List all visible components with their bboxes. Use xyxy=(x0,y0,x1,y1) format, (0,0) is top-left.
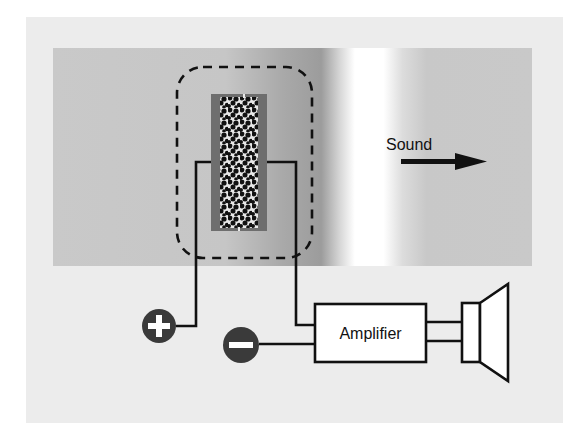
negative-terminal xyxy=(223,327,259,363)
carbon-granules xyxy=(220,97,258,228)
carbon-microphone-diagram: Sound Amplifier xyxy=(0,0,567,440)
amplifier: Amplifier xyxy=(315,304,426,362)
loudspeaker-icon xyxy=(462,284,508,381)
positive-terminal xyxy=(142,309,176,343)
amplifier-label: Amplifier xyxy=(339,325,402,342)
carbon-microphone xyxy=(211,94,267,231)
bottom-notch xyxy=(238,227,240,231)
diaphragm-notch xyxy=(243,94,245,98)
sound-label: Sound xyxy=(386,136,432,153)
minus-icon xyxy=(229,342,253,348)
